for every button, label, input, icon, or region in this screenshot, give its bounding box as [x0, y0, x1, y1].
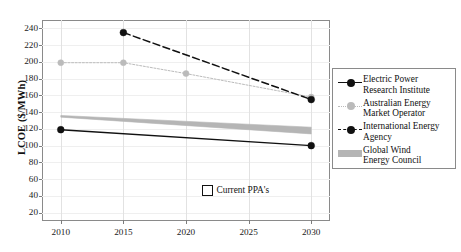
legend-band-swatch-icon	[338, 150, 362, 157]
legend-item-gwec[interactable]: Global WindEnergy Council	[336, 144, 452, 168]
plot-area: Current PPA's	[42, 20, 330, 221]
y-tick-label: 140	[12, 108, 38, 117]
y-tick-label: 240	[12, 24, 38, 33]
x-tick-label: 2030	[286, 228, 336, 237]
legend-marker-icon	[347, 126, 355, 134]
marker-aemo	[58, 60, 64, 66]
legend-item-iea[interactable]: International EnergyAgency	[336, 120, 452, 144]
marker-aemo	[120, 60, 126, 66]
band-gwec	[61, 115, 311, 133]
legend-label-iea: International EnergyAgency	[363, 120, 440, 142]
legend-key-gwec	[337, 144, 363, 164]
y-tick-label: 80	[12, 158, 38, 167]
marker-iea	[120, 29, 127, 36]
legend-marker-icon	[347, 79, 355, 87]
legend-marker-icon	[347, 102, 355, 110]
x-tick-label: 2020	[161, 228, 211, 237]
legend-label-line1: Global Wind	[363, 145, 421, 156]
legend-label-gwec: Global WindEnergy Council	[363, 144, 421, 166]
chart-figure: LCOE ($/MWh) 204060801001201401601802002…	[0, 0, 461, 252]
y-tick-label: 160	[12, 91, 38, 100]
legend-label-line2: Market Operator	[363, 108, 431, 119]
marker-iea	[308, 96, 315, 103]
y-tick-label: 60	[12, 175, 38, 184]
y-tick-label: 20	[12, 208, 38, 217]
legend-label-epri: Electric PowerResearch Institute	[363, 73, 430, 95]
x-tick-label: 2025	[224, 228, 274, 237]
y-axis-tick-labels: 20406080100120140160180200220240	[10, 0, 38, 252]
x-tick-label: 2010	[36, 228, 86, 237]
legend-key-iea	[337, 120, 363, 140]
marker-epri	[57, 126, 64, 133]
series-aemo	[58, 60, 314, 100]
x-tick-label: 2015	[98, 228, 148, 237]
legend-label-line1: Australian Energy	[363, 98, 431, 109]
line-aemo	[61, 63, 311, 97]
legend-label-line1: International Energy	[363, 121, 440, 132]
current-ppa-label: Current PPA's	[217, 185, 270, 195]
data-series-layer	[42, 20, 330, 221]
current-ppa-swatch-icon	[202, 185, 213, 196]
legend-label-line2: Research Institute	[363, 85, 430, 96]
line-epri	[61, 130, 311, 146]
legend-key-epri	[337, 73, 363, 93]
marker-epri	[308, 142, 315, 149]
y-tick-label: 220	[12, 41, 38, 50]
legend-item-aemo[interactable]: Australian EnergyMarket Operator	[336, 97, 452, 121]
current-ppa-annotation: Current PPA's	[202, 185, 269, 196]
line-iea	[123, 33, 311, 100]
legend-label-line2: Energy Council	[363, 155, 421, 166]
legend-label-line2: Agency	[363, 132, 440, 143]
chart-legend: Electric PowerResearch InstituteAustrali…	[332, 68, 456, 169]
y-tick-label: 120	[12, 124, 38, 133]
y-tick-label: 40	[12, 191, 38, 200]
legend-label-line1: Electric Power	[363, 74, 430, 85]
y-tick-label: 180	[12, 74, 38, 83]
marker-aemo	[183, 71, 189, 77]
series-gwec	[61, 115, 311, 133]
y-tick-label: 100	[12, 141, 38, 150]
y-tick-label: 200	[12, 57, 38, 66]
legend-label-aemo: Australian EnergyMarket Operator	[363, 97, 431, 119]
legend-item-epri[interactable]: Electric PowerResearch Institute	[336, 73, 452, 97]
legend-key-aemo	[337, 97, 363, 117]
